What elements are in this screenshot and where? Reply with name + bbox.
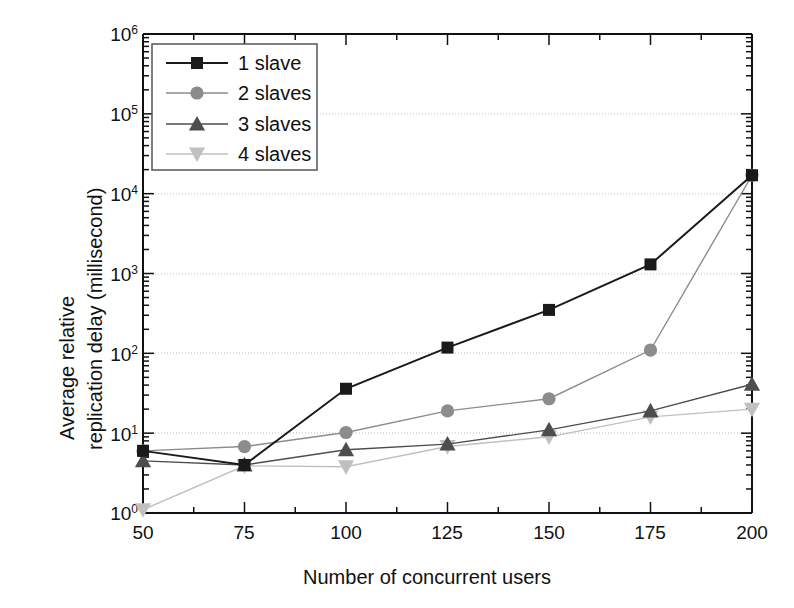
data-point — [645, 258, 657, 270]
data-point — [441, 404, 454, 417]
legend-item-label: 2 slaves — [238, 82, 311, 105]
data-series-layer — [135, 169, 760, 518]
data-point — [238, 440, 251, 453]
data-point — [135, 503, 151, 518]
series-3-slaves — [135, 376, 760, 471]
figure-container: Average relative replication delay (mill… — [0, 0, 794, 608]
series-4-slaves — [135, 403, 760, 518]
data-point — [239, 459, 251, 471]
data-point — [542, 392, 555, 405]
legend-symbol — [191, 57, 203, 69]
legend-item-label: 3 slaves — [238, 113, 311, 136]
data-point — [442, 342, 454, 354]
data-point — [746, 169, 758, 181]
data-point — [744, 376, 760, 391]
data-point — [644, 343, 657, 356]
data-point — [137, 445, 149, 457]
data-point — [340, 383, 352, 395]
legend-item-label: 1 slave — [238, 52, 301, 75]
data-point — [339, 426, 352, 439]
plot-area — [0, 0, 794, 608]
legend-symbol — [190, 86, 203, 99]
series-1-slave — [137, 169, 758, 471]
series-line — [143, 409, 752, 510]
series-line — [143, 175, 752, 465]
data-point — [543, 304, 555, 316]
data-point — [338, 460, 354, 475]
legend-item-label: 4 slaves — [238, 143, 311, 166]
series-2-slaves — [136, 169, 758, 458]
